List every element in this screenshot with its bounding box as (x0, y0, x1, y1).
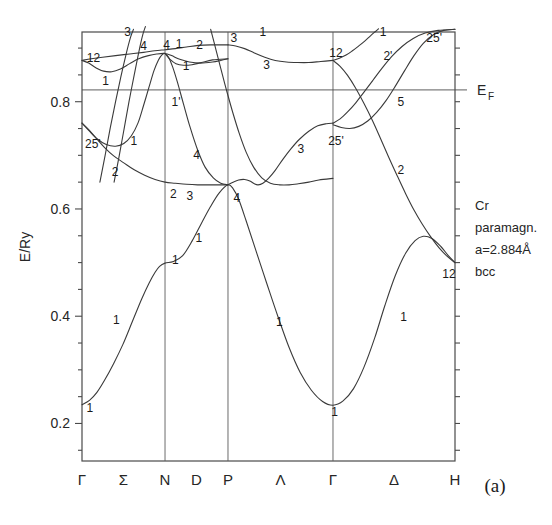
annotation-line-3: bcc (475, 264, 496, 279)
fermi-level-label: EF (477, 82, 494, 102)
band-label-1: 1 (331, 405, 338, 419)
band-label-12: 12 (329, 46, 343, 60)
band-curves (82, 27, 455, 406)
band-label-2p: 2' (383, 49, 392, 63)
x-symbol-Γ: Γ (329, 471, 337, 488)
band-label-1: 1 (172, 253, 179, 267)
high-symmetry-lines (165, 32, 333, 461)
fermi-label: E (477, 82, 486, 98)
band-2-sigma2 (82, 123, 228, 185)
x-symbol-Δ: Δ (389, 471, 399, 488)
band-8-lambda3-upper (228, 45, 333, 63)
fermi-sublabel: F (488, 91, 494, 102)
panel-label: (a) (484, 475, 505, 497)
x-symbol-Σ: Σ (119, 471, 128, 488)
band-label-3: 3 (186, 189, 193, 203)
y-tick-label: 0.6 (51, 201, 71, 217)
band-label-1: 1 (183, 59, 190, 73)
x-symbol-N: N (160, 471, 171, 488)
band-label-1: 1 (131, 134, 138, 148)
band-15-d-branch-cross (165, 53, 228, 65)
band-index-labels: 111123425'2112134412311'4133111225'12'25… (85, 25, 456, 419)
y-tick-label: 0.2 (51, 415, 71, 431)
band-label-1: 1 (380, 25, 387, 39)
band-label-25p: 25' (426, 31, 442, 45)
band-label-2: 2 (398, 163, 405, 177)
band-1-lowest (82, 185, 455, 406)
band-label-12: 12 (87, 51, 101, 65)
band-label-4: 4 (233, 191, 240, 205)
band-label-1: 1 (195, 231, 202, 245)
x-axis-symbol-labels: ΓΣNDPΛΓΔH (78, 471, 461, 488)
band-structure-plot: 0.20.40.60.8 111123425'2112134412311'413… (0, 0, 552, 525)
band-label-12: 12 (442, 267, 456, 281)
band-label-1: 1 (276, 315, 283, 329)
band-5-gamma12-upper (82, 45, 228, 61)
x-symbol-Λ: Λ (275, 471, 285, 488)
band-9-lambda3-lower (228, 123, 333, 185)
x-symbol-Γ: Γ (78, 471, 86, 488)
panel-label-text: (a) (484, 475, 505, 497)
band-label-1: 1 (113, 313, 120, 327)
band-structure-figure: 0.20.40.60.8 111123425'2112134412311'413… (0, 0, 552, 525)
band-label-1: 1 (102, 74, 109, 88)
band-label-1: 1 (176, 37, 183, 51)
annotation-line-2: a=2.884Å (475, 242, 531, 257)
band-label-1: 1 (260, 25, 267, 39)
band-label-1p: 1' (172, 95, 181, 109)
x-symbol-P: P (223, 471, 233, 488)
x-symbol-H: H (450, 471, 461, 488)
band-label-4: 4 (163, 38, 170, 52)
band-label-3: 3 (298, 142, 305, 156)
band-3-sigma1-rise (82, 53, 228, 185)
band-label-2: 2 (170, 187, 177, 201)
y-tick-label: 0.4 (51, 308, 71, 324)
band-label-3: 3 (230, 31, 237, 45)
band-label-1: 1 (86, 401, 93, 415)
band-label-2: 2 (112, 165, 119, 179)
x-symbol-D: D (191, 471, 202, 488)
band-label-3: 3 (263, 58, 270, 72)
material-annotation: Crparamagn.a=2.884Åbcc (475, 198, 537, 279)
annotation-line-1: paramagn. (475, 220, 537, 235)
y-axis-title: E/Ry (17, 232, 33, 262)
annotation-line-0: Cr (475, 198, 489, 213)
band-label-25p: 25' (85, 137, 101, 151)
band-label-2: 2 (196, 38, 203, 52)
band-label-4: 4 (140, 39, 147, 53)
band-label-4: 4 (193, 148, 200, 162)
y-axis-label: E/Ry (17, 232, 33, 262)
band-14-delta2-down (333, 60, 455, 262)
band-10-lambda1-descend (211, 29, 333, 185)
y-tick-label: 0.8 (51, 94, 71, 110)
band-label-1: 1 (400, 310, 407, 324)
band-label-3: 3 (124, 25, 131, 39)
band-label-5: 5 (398, 95, 405, 109)
band-label-25p: 25' (328, 134, 344, 148)
